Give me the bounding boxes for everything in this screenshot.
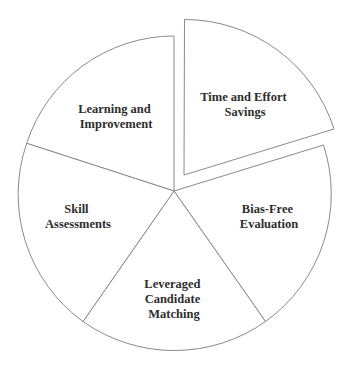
label-learning-and-improvement: Learning and Improvement bbox=[78, 102, 154, 131]
label-bias-free-evaluation: Bias-Free Evaluation bbox=[240, 202, 298, 231]
label-leveraged-candidate-matching: Leveraged Candidate Matching bbox=[144, 277, 203, 321]
pie-diagram: Learning and Improvement Time and Effort… bbox=[0, 0, 349, 369]
